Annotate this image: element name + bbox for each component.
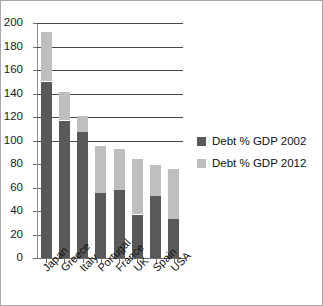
y-axis-tick-label: 80 — [10, 158, 23, 170]
bar-segment-2012 — [150, 165, 161, 196]
y-axis-tick-label: 120 — [4, 111, 23, 123]
bar-group — [77, 23, 88, 258]
x-axis-tick-labels: JapanGreeceItalyPortugalFranceUKSpainUSA — [37, 259, 197, 306]
bar-segment-2012 — [77, 116, 88, 132]
y-axis-tick-label: 140 — [4, 88, 23, 100]
y-axis-tick-label: 160 — [4, 64, 23, 76]
bar-segment-2002 — [95, 193, 106, 258]
y-axis-tick-label: 200 — [4, 17, 23, 29]
plot-area — [37, 23, 183, 258]
y-axis-tick-labels: 200180160140120100806040200 — [1, 23, 33, 259]
bar-group — [114, 23, 125, 258]
bar-group — [132, 23, 143, 258]
bar-segment-2012 — [59, 92, 70, 120]
bar-group — [95, 23, 106, 258]
bar-segment-2002 — [41, 82, 52, 258]
legend-label-2002: Debt % GDP 2002 — [212, 135, 306, 147]
bar-group — [41, 23, 52, 258]
y-axis-tick-label: 20 — [10, 229, 23, 241]
y-axis-tick-label: 60 — [10, 182, 23, 194]
legend-label-2012: Debt % GDP 2012 — [212, 157, 306, 169]
legend-item: Debt % GDP 2002 — [197, 132, 317, 150]
bar-segment-2002 — [59, 121, 70, 258]
bar-segment-2002 — [150, 196, 161, 258]
bar-segment-2012 — [41, 32, 52, 81]
bar-group — [59, 23, 70, 258]
y-axis-tick-label: 40 — [10, 205, 23, 217]
bar-segment-2012 — [114, 149, 125, 190]
legend-swatch-2012 — [197, 159, 206, 168]
bar-group — [168, 23, 179, 258]
y-axis-tick-label: 100 — [4, 135, 23, 147]
chart-legend: Debt % GDP 2002 Debt % GDP 2012 — [197, 132, 317, 176]
bar-segment-2012 — [168, 169, 179, 220]
legend-item: Debt % GDP 2012 — [197, 154, 317, 172]
bar-segment-2012 — [95, 146, 106, 193]
bar-group — [150, 23, 161, 258]
legend-swatch-2002 — [197, 137, 206, 146]
chart-figure: 200180160140120100806040200 JapanGreeceI… — [0, 0, 323, 306]
bar-segment-2012 — [132, 159, 143, 214]
y-axis-tick-label: 0 — [17, 252, 23, 264]
y-axis-tick-label: 180 — [4, 41, 23, 53]
